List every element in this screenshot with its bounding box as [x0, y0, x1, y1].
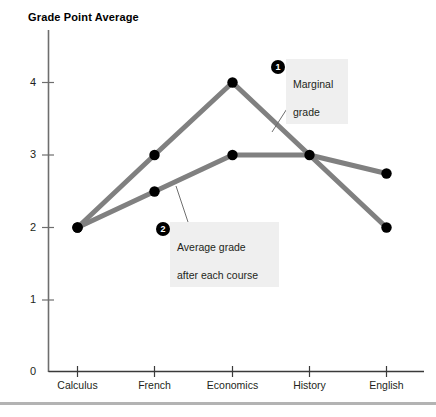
x-tick-label-economics: Economics: [207, 379, 258, 391]
callout-two-badge: 2: [156, 222, 170, 236]
y-tick-label-3: 3: [22, 148, 36, 160]
plot-area: [0, 0, 436, 417]
y-tick-label-1: 1: [22, 293, 36, 305]
callout-one-line1: Marginal: [293, 78, 333, 90]
y-tick-label-0: 0: [22, 365, 36, 377]
footer-divider: [0, 402, 436, 405]
callout-one-badge: 1: [271, 60, 285, 74]
x-tick-label-history: History: [293, 379, 326, 391]
y-tick-label-4: 4: [22, 76, 36, 88]
x-tick-label-english: English: [369, 379, 403, 391]
callout-one-text: Marginal grade: [286, 59, 348, 124]
callout-one-line2: grade: [293, 106, 320, 118]
callout-two-leader-line: [176, 186, 188, 222]
callout-two-line2: after each course: [177, 269, 258, 281]
chart-figure: Grade Point Average: [0, 0, 436, 417]
callout-two-text: Average grade after each course: [170, 222, 279, 287]
x-tick-label-french: French: [138, 379, 171, 391]
callout-two-line1: Average grade: [177, 241, 246, 253]
series-line-average-grade: [78, 155, 387, 228]
y-tick-label-2: 2: [22, 221, 36, 233]
x-tick-label-calculus: Calculus: [57, 379, 97, 391]
